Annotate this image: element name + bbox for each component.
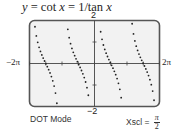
xscl-fraction: π2 xyxy=(154,114,160,130)
xscl-den: 2 xyxy=(154,123,160,130)
xscl-label: Xscl = π2 xyxy=(126,114,160,130)
mode-label: DOT Mode xyxy=(30,114,71,124)
graph-screen xyxy=(0,0,179,130)
xscl-prefix: Xscl = xyxy=(126,117,149,127)
